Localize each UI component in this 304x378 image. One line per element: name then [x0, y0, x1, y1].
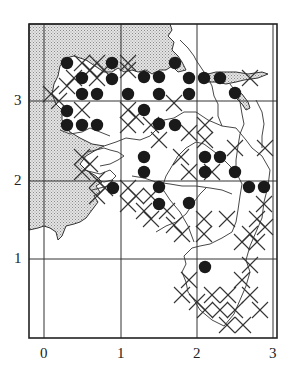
- cross-marker: [257, 219, 273, 235]
- x-tick-label: 2: [193, 346, 201, 361]
- cross-marker: [181, 125, 197, 141]
- cross-marker: [174, 287, 190, 303]
- cross-marker: [120, 196, 136, 212]
- dot-marker: [61, 119, 73, 131]
- cross-marker: [227, 302, 243, 318]
- dot-marker: [258, 181, 270, 193]
- dot-marker: [169, 119, 181, 131]
- dot-marker: [153, 118, 165, 130]
- dot-marker: [214, 72, 226, 84]
- dot-marker: [169, 57, 181, 69]
- x-tick-label: 3: [269, 346, 277, 361]
- dot-marker: [199, 166, 211, 178]
- dot-marker: [138, 151, 150, 163]
- cross-marker: [256, 196, 272, 212]
- x-tick-label: 0: [40, 346, 48, 361]
- dot-marker: [198, 72, 210, 84]
- dot-marker: [61, 57, 73, 69]
- y-tick-label: 3: [14, 93, 22, 108]
- cross-marker: [234, 234, 250, 250]
- dot-marker: [214, 151, 226, 163]
- dot-markers: [61, 57, 270, 273]
- dot-marker: [76, 72, 88, 84]
- dot-marker: [229, 166, 241, 178]
- dot-marker: [229, 87, 241, 99]
- cross-marker: [212, 302, 228, 318]
- dot-marker: [153, 181, 165, 193]
- cross-marker: [120, 102, 136, 118]
- y-tick-label: 1: [14, 251, 22, 266]
- cross-marker: [74, 102, 90, 118]
- cross-marker: [151, 132, 167, 148]
- dot-marker: [153, 198, 165, 210]
- dot-marker: [153, 71, 165, 83]
- cross-marker: [143, 211, 159, 227]
- dot-marker: [122, 88, 134, 100]
- cross-marker: [136, 203, 152, 219]
- dot-marker: [138, 166, 150, 178]
- dot-marker: [138, 71, 150, 83]
- cross-marker: [204, 287, 220, 303]
- dot-marker: [199, 261, 211, 273]
- distribution-map: [0, 0, 304, 378]
- cross-marker: [59, 78, 75, 94]
- dot-marker: [153, 88, 165, 100]
- dot-marker: [91, 88, 103, 100]
- dot-marker: [76, 119, 88, 131]
- cross-marker: [235, 317, 251, 333]
- dot-marker: [61, 105, 73, 117]
- dot-marker: [183, 72, 195, 84]
- dot-marker: [76, 88, 88, 100]
- cross-marker: [219, 211, 235, 227]
- cross-marker: [242, 287, 258, 303]
- dot-marker: [199, 151, 211, 163]
- cross-marker: [227, 140, 243, 156]
- dot-marker: [183, 197, 195, 209]
- cross-marker: [197, 117, 213, 133]
- cross-marker: [196, 211, 212, 227]
- cross-marker: [220, 287, 236, 303]
- dot-marker: [106, 73, 118, 85]
- cross-marker: [89, 70, 105, 86]
- cross-marker: [196, 226, 212, 242]
- dot-marker: [107, 182, 119, 194]
- dot-marker: [183, 88, 195, 100]
- cross-marker: [257, 140, 273, 156]
- y-tick-label: 2: [14, 173, 22, 188]
- dot-marker: [243, 181, 255, 193]
- dot-marker: [91, 119, 103, 131]
- cross-marker: [173, 149, 189, 165]
- cross-marker: [174, 226, 190, 242]
- cross-marker: [82, 156, 98, 172]
- cross-marker: [252, 302, 268, 318]
- cross-marker: [181, 272, 197, 288]
- dot-marker: [138, 104, 150, 116]
- cross-marker: [197, 132, 213, 148]
- dot-marker: [106, 57, 118, 69]
- cross-marker: [181, 164, 197, 180]
- x-tick-label: 1: [117, 346, 125, 361]
- cross-marker: [166, 95, 182, 111]
